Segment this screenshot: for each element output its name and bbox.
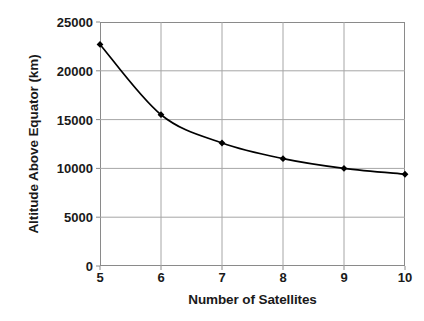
x-axis-tick-label: 5 bbox=[80, 270, 120, 285]
y-axis-tick-label: 10000 bbox=[33, 161, 93, 176]
x-axis-tick-label: 8 bbox=[263, 270, 303, 285]
y-axis-title: Altitude Above Equator (km) bbox=[22, 22, 44, 266]
x-axis-tick-label: 10 bbox=[385, 270, 424, 285]
y-axis-tick-label: 20000 bbox=[33, 63, 93, 78]
y-axis-tick-label: 15000 bbox=[33, 112, 93, 127]
x-axis-title: Number of Satellites bbox=[100, 292, 405, 307]
x-axis-tick-label: 9 bbox=[324, 270, 364, 285]
plot-area bbox=[100, 22, 405, 266]
x-axis-tick-label: 6 bbox=[141, 270, 181, 285]
y-axis-tick-label: 5000 bbox=[33, 210, 93, 225]
y-axis-tick-label: 25000 bbox=[33, 15, 93, 30]
chart-container: Altitude Above Equator (km) Number of Sa… bbox=[0, 0, 424, 321]
x-axis-tick-label: 7 bbox=[202, 270, 242, 285]
